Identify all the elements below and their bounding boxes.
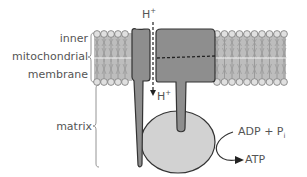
reaction-arrowhead-icon [235, 156, 244, 164]
label-matrix: matrix [40, 120, 92, 133]
proton-arrow-icon [150, 90, 156, 96]
reactant-text: ADP + P [238, 125, 283, 138]
label-proton-bottom: H+ [157, 90, 171, 103]
label-mitochondrial: mitochondrial [2, 50, 88, 63]
proton-bottom-charge: + [165, 89, 171, 97]
label-proton-top: H+ [142, 8, 156, 21]
label-inner: inner [20, 32, 88, 45]
diagram-graphic [0, 0, 307, 177]
label-atp: ATP [245, 153, 265, 166]
reaction-arrow [216, 132, 236, 160]
label-membrane: membrane [10, 68, 88, 81]
atp-synthase-diagram: inner mitochondrial membrane matrix H+ H… [0, 0, 307, 177]
reactant-subscript: i [283, 132, 285, 140]
membrane-lipids-right [214, 31, 288, 86]
proton-top-charge: + [150, 7, 156, 15]
membrane-lipids-left [94, 31, 132, 86]
matrix-brace [93, 85, 99, 167]
membrane-brace [88, 33, 94, 82]
label-adp-pi: ADP + Pi [238, 125, 285, 138]
